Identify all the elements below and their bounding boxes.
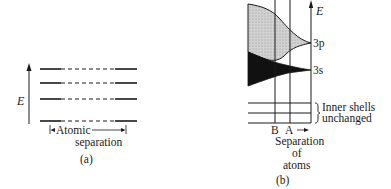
brace-icon [315,103,320,123]
arrowhead-icon [27,63,32,71]
separation-label: separation [75,136,123,149]
axis-label-e-b: E [315,4,324,18]
panel-b: E 3p 3s Inner shells unchanged B A Separ… [248,0,376,187]
atomic-label: Atomic [56,124,91,136]
inner-shell-levels [248,103,311,123]
arrowhead-icon [309,0,313,8]
caption-b: (b) [276,174,290,187]
unchanged-label: unchanged [322,112,372,125]
caption-a: (a) [80,153,93,166]
separation-of-atoms-line2: of [292,147,302,159]
axis-label-e: E [16,94,25,108]
label-3p: 3p [313,37,325,50]
band-3p [248,4,311,60]
panel-a: E Atomic separation (a) [16,63,137,166]
figure-canvas: E Atomic separation (a) [0,0,391,189]
label-3s: 3s [313,64,324,76]
separation-of-atoms-line3: atoms [283,159,311,171]
energy-levels [40,69,137,121]
arrowhead-right-icon [304,128,309,132]
